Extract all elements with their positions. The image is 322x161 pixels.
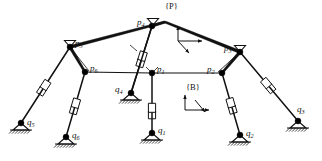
prismatic-actuator (37, 79, 51, 96)
ground-supports-layer (9, 93, 309, 148)
label-subscript: 3 (228, 47, 232, 54)
label-subscript: 6 (77, 134, 81, 141)
frame-axis-diagonal (178, 41, 189, 53)
actuator-prong (136, 58, 138, 65)
actuator-cylinder (148, 103, 155, 112)
platform-web (70, 47, 89, 71)
label-q1: q1 (158, 125, 166, 136)
label-subscript: 6 (95, 67, 99, 74)
label-p4: p4 (136, 17, 145, 28)
actuator-prong (37, 86, 41, 92)
actuator-cylinder (40, 79, 51, 90)
label-subscript: 2 (251, 132, 254, 139)
label-subscript: 5 (32, 121, 35, 128)
prismatic-actuator (69, 98, 80, 115)
label-q3: q3 (297, 104, 305, 115)
frame-b (185, 95, 209, 112)
label-q2: q2 (246, 128, 254, 139)
prismatic-actuator (226, 97, 237, 114)
joint-marker (67, 44, 73, 50)
actuator-prong (43, 90, 47, 96)
label-subscript: 1 (162, 68, 165, 75)
frame-label-frame-b: {B} (186, 82, 200, 92)
label-p2: p2 (206, 64, 215, 75)
mechanism-diagram: p1p2p3p4p5p6q1q2q3q4q5q6{P}{B} (0, 0, 322, 161)
label-p3: p3 (223, 43, 232, 54)
frame-label-frame-p: {P} (165, 1, 178, 11)
label-subscript: 2 (212, 68, 215, 75)
label-p6: p6 (89, 63, 99, 74)
joint-marker (63, 134, 69, 140)
actuator-cylinder (226, 97, 235, 108)
joint-marker (18, 120, 24, 126)
label-subscript: 3 (301, 108, 305, 115)
platform-web (218, 52, 240, 72)
label-p5: p5 (74, 38, 83, 49)
label-subscript: 1 (163, 129, 166, 136)
label-q4: q4 (115, 84, 123, 95)
joint-marker (237, 132, 243, 138)
actuator-prong (235, 105, 237, 112)
actuator-cylinder (71, 98, 80, 109)
actuator-prong (69, 106, 71, 113)
joint-marker (219, 70, 225, 76)
label-q6: q6 (72, 130, 81, 141)
label-q5: q5 (27, 117, 35, 128)
actuated-legs-layer (21, 26, 298, 137)
label-subscript: 4 (142, 21, 145, 28)
label-subscript: 4 (120, 88, 123, 95)
joint-marker (237, 49, 243, 55)
joint-marker (149, 130, 155, 136)
joint-marker (295, 118, 301, 124)
prismatic-actuator (260, 77, 275, 93)
joint-markers-layer (18, 23, 301, 140)
actuator-prong (271, 83, 276, 89)
actuator-prong (266, 88, 271, 94)
joint-marker (149, 70, 155, 76)
joint-marker (149, 23, 155, 29)
kinematic-schematic-svg: p1p2p3p4p5p6q1q2q3q4q5q6{P}{B} (0, 0, 322, 161)
label-p1: p1 (156, 64, 165, 75)
joint-marker (82, 69, 88, 75)
leg-link-p4-q4 (131, 26, 152, 93)
platform-web (130, 45, 137, 51)
joint-marker (128, 90, 134, 96)
label-subscript: 5 (80, 42, 83, 49)
platform-bar-segment (222, 53, 240, 74)
platform-bar-segment (70, 48, 85, 73)
